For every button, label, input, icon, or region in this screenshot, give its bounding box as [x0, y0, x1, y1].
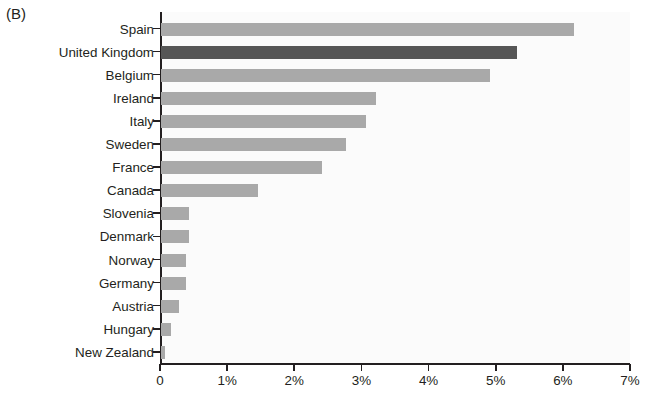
category-label-belgium: Belgium — [106, 64, 154, 87]
bar-austria — [161, 300, 179, 313]
category-label-sweden: Sweden — [106, 133, 154, 156]
bar-sweden — [161, 138, 346, 151]
y-axis-tick — [153, 166, 160, 168]
y-axis-tick — [153, 189, 160, 191]
bar-row: Italy — [0, 110, 649, 133]
bar-chart-panel-b: (B) SpainUnited KingdomBelgiumIrelandIta… — [0, 0, 649, 396]
y-axis-tick — [153, 236, 160, 238]
x-axis-tick — [226, 364, 228, 371]
bar-ireland — [161, 92, 376, 105]
category-label-denmark: Denmark — [100, 225, 154, 248]
y-axis-tick — [153, 143, 160, 145]
x-axis-tick — [361, 364, 363, 371]
category-label-canada: Canada — [107, 179, 154, 202]
category-label-italy: Italy — [129, 110, 154, 133]
category-label-austria: Austria — [112, 295, 154, 318]
y-axis-tick — [153, 97, 160, 99]
category-label-france: France — [112, 156, 154, 179]
x-axis-tick-label: 0 — [156, 373, 163, 389]
x-axis-tick — [562, 364, 564, 371]
bar-germany — [161, 277, 186, 290]
bar-row: New Zealand — [0, 341, 649, 364]
bar-row: Sweden — [0, 133, 649, 156]
x-axis-tick-label: 2% — [285, 373, 304, 389]
y-axis-tick — [153, 328, 160, 330]
bar-row: United Kingdom — [0, 41, 649, 64]
bar-row: Belgium — [0, 64, 649, 87]
x-axis-tick-label: 1% — [217, 373, 236, 389]
category-label-spain: Spain — [120, 18, 154, 41]
bar-norway — [161, 254, 186, 267]
x-axis-tick-label: 4% — [419, 373, 438, 389]
y-axis-tick — [153, 212, 160, 214]
bar-united-kingdom — [161, 46, 517, 59]
bar-row: Ireland — [0, 87, 649, 110]
category-label-germany: Germany — [99, 272, 154, 295]
bar-row: Denmark — [0, 225, 649, 248]
bar-row: Austria — [0, 295, 649, 318]
x-axis-tick-label: 7% — [620, 373, 639, 389]
y-axis-tick — [153, 28, 160, 30]
x-axis-tick-label: 6% — [553, 373, 572, 389]
y-axis-tick — [153, 282, 160, 284]
y-axis-tick — [153, 259, 160, 261]
x-axis-tick — [495, 364, 497, 371]
bar-italy — [161, 115, 366, 128]
category-label-ireland: Ireland — [113, 87, 154, 110]
bar-row: France — [0, 156, 649, 179]
bar-new-zealand — [161, 346, 165, 359]
bar-denmark — [161, 230, 189, 243]
y-axis-tick — [153, 74, 160, 76]
x-axis-tick — [293, 364, 295, 371]
category-label-new-zealand: New Zealand — [75, 341, 154, 364]
bar-canada — [161, 184, 258, 197]
bar-row: Slovenia — [0, 202, 649, 225]
x-axis-tick — [428, 364, 430, 371]
bar-spain — [161, 23, 574, 36]
category-label-norway: Norway — [109, 249, 154, 272]
category-label-slovenia: Slovenia — [103, 202, 154, 225]
y-axis-tick — [153, 305, 160, 307]
bar-row: Germany — [0, 272, 649, 295]
y-axis-tick — [153, 120, 160, 122]
y-axis-tick — [153, 351, 160, 353]
y-axis-tick — [153, 51, 160, 53]
bar-belgium — [161, 69, 490, 82]
x-axis-tick — [629, 364, 631, 371]
bar-row: Canada — [0, 179, 649, 202]
bar-row: Norway — [0, 249, 649, 272]
bar-france — [161, 161, 322, 174]
x-axis-tick-label: 3% — [352, 373, 371, 389]
x-axis-tick-label: 5% — [486, 373, 505, 389]
x-axis-tick — [159, 364, 161, 371]
bar-hungary — [161, 323, 171, 336]
bar-row: Spain — [0, 18, 649, 41]
bar-row: Hungary — [0, 318, 649, 341]
category-label-united-kingdom: United Kingdom — [59, 41, 154, 64]
bar-slovenia — [161, 207, 189, 220]
category-label-hungary: Hungary — [103, 318, 154, 341]
